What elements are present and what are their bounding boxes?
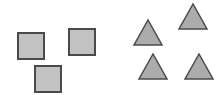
square-shape-2 <box>69 29 95 55</box>
square-shape-1 <box>18 33 44 59</box>
triangle-shape-1 <box>134 20 162 45</box>
triangles-group <box>134 4 213 79</box>
triangle-shape-4 <box>185 54 213 79</box>
triangle-shape-2 <box>179 4 207 29</box>
triangle-shape-3 <box>139 54 167 79</box>
squares-group <box>18 29 95 92</box>
square-shape-3 <box>35 66 61 92</box>
shapes-diagram <box>0 0 220 95</box>
